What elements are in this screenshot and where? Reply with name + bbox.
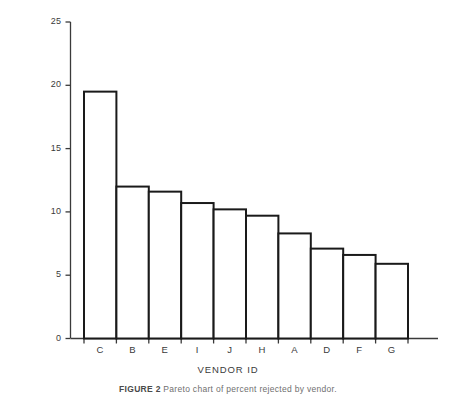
bar-b bbox=[116, 187, 148, 339]
x-tick-label-g: G bbox=[376, 344, 408, 355]
x-tick-label-a: A bbox=[278, 344, 310, 355]
y-tick-label: 15 bbox=[36, 143, 62, 153]
y-tick-label: 10 bbox=[36, 206, 62, 216]
y-tick-label: 0 bbox=[36, 333, 62, 343]
x-tick-label-c: C bbox=[84, 344, 116, 355]
figure-caption: FIGURE 2 Pareto chart of percent rejecte… bbox=[0, 384, 456, 394]
bar-c bbox=[84, 92, 116, 339]
bar-d bbox=[311, 249, 343, 339]
x-tick-label-j: J bbox=[214, 344, 246, 355]
bar-f bbox=[343, 255, 375, 339]
bar-e bbox=[149, 192, 181, 339]
figure-caption-text: Pareto chart of percent rejected by vend… bbox=[163, 384, 337, 394]
bar-a bbox=[278, 233, 310, 338]
y-tick-label: 25 bbox=[36, 16, 62, 26]
bar-i bbox=[181, 203, 213, 338]
figure-caption-label: FIGURE 2 bbox=[119, 384, 161, 394]
y-tick-marks bbox=[66, 22, 71, 339]
x-tick-label-e: E bbox=[149, 344, 181, 355]
x-tick-label-i: I bbox=[181, 344, 213, 355]
bar-g bbox=[376, 264, 408, 339]
x-tick-label-b: B bbox=[116, 344, 148, 355]
y-tick-label: 5 bbox=[36, 269, 62, 279]
bar-j bbox=[214, 209, 246, 338]
x-axis-title: VENDOR ID bbox=[0, 364, 456, 375]
x-tick-label-f: F bbox=[343, 344, 375, 355]
x-tick-label-d: D bbox=[311, 344, 343, 355]
y-tick-label: 20 bbox=[36, 79, 62, 89]
x-tick-label-h: H bbox=[246, 344, 278, 355]
bars-group bbox=[84, 92, 408, 339]
bar-h bbox=[246, 216, 278, 339]
